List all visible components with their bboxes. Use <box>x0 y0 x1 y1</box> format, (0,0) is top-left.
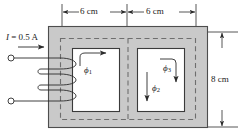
terminal-group <box>8 55 14 104</box>
core-window-right <box>138 49 185 112</box>
dimension-label-top-right: 6 cm <box>146 7 164 16</box>
phi1-subscript: 1 <box>89 68 92 75</box>
dimension-label-top-left: 6 cm <box>80 7 98 16</box>
current-label: I = 0.5 A <box>6 33 38 42</box>
current-value: 0.5 A <box>19 32 39 42</box>
phi2-subscript: 2 <box>157 86 160 93</box>
magnetic-circuit-figure: 6 cm 6 cm 8 cm I = 0.5 A ϕ1 ϕ2 ϕ3 <box>0 0 245 140</box>
coil-back-1 <box>38 69 41 74</box>
flux-label-phi2: ϕ2 <box>152 84 160 94</box>
terminal-bottom <box>8 98 14 104</box>
terminal-top <box>8 55 14 61</box>
coil-back-2 <box>38 85 41 90</box>
flux-label-phi3: ϕ3 <box>163 64 171 74</box>
phi3-subscript: 3 <box>168 66 171 73</box>
current-equals: = <box>9 32 19 42</box>
dimension-label-right-side: 8 cm <box>211 75 229 84</box>
diagram-canvas <box>0 0 245 140</box>
flux-label-phi1: ϕ1 <box>84 66 92 76</box>
